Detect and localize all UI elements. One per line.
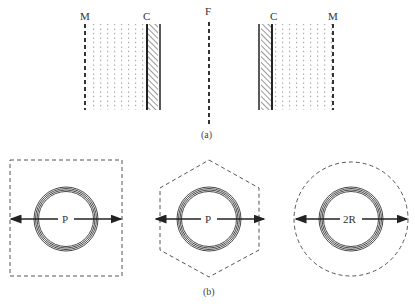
square-cell: P bbox=[10, 160, 122, 276]
left-dotted-region bbox=[87, 24, 145, 110]
label-right-c: C bbox=[270, 10, 277, 22]
right-dotted-region bbox=[274, 24, 332, 110]
right-wall-group: C M bbox=[259, 10, 338, 110]
part-b: P P 2R bbox=[10, 160, 408, 298]
caption-b: (b) bbox=[203, 286, 215, 298]
part-a: M C F C M (a) bbox=[80, 5, 338, 141]
label-f: F bbox=[205, 5, 211, 17]
circle-cell: 2R bbox=[294, 162, 408, 276]
label-square-p: P bbox=[62, 213, 68, 225]
label-right-m: M bbox=[328, 10, 338, 22]
left-hatched-wall bbox=[148, 24, 158, 110]
label-left-c: C bbox=[143, 10, 150, 22]
diagram-figure: M C F C M (a) bbox=[0, 0, 415, 308]
right-hatched-wall bbox=[261, 24, 271, 110]
label-hexagon-p: P bbox=[205, 213, 211, 225]
label-circle-2r: 2R bbox=[343, 213, 357, 225]
caption-a: (a) bbox=[201, 129, 212, 141]
center-f-group: F bbox=[205, 5, 211, 125]
hexagon-cell: P bbox=[156, 160, 264, 277]
left-wall-group: M C bbox=[80, 10, 160, 110]
label-left-m: M bbox=[80, 10, 90, 22]
